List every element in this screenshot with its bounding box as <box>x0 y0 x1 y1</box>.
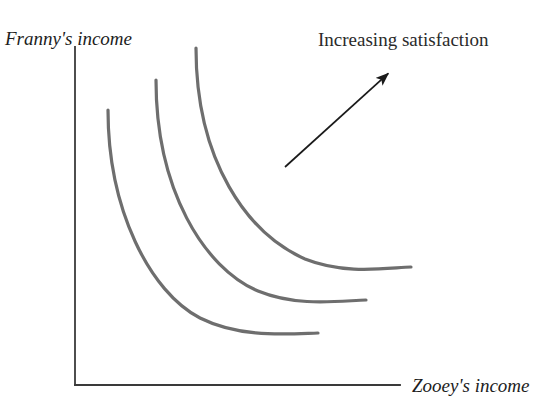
figure-canvas: Franny's income Zooey's income Increasin… <box>0 0 559 416</box>
increasing-satisfaction-arrow-group <box>285 73 388 167</box>
x-axis-label: Zooey's income <box>412 375 530 396</box>
y-axis-label: Franny's income <box>4 28 132 49</box>
indifference-curve-figure: Franny's income Zooey's income Increasin… <box>0 0 559 416</box>
indifference-curves-group <box>108 48 411 334</box>
increasing-satisfaction-arrow <box>285 73 388 167</box>
increasing-satisfaction-label: Increasing satisfaction <box>318 29 489 50</box>
